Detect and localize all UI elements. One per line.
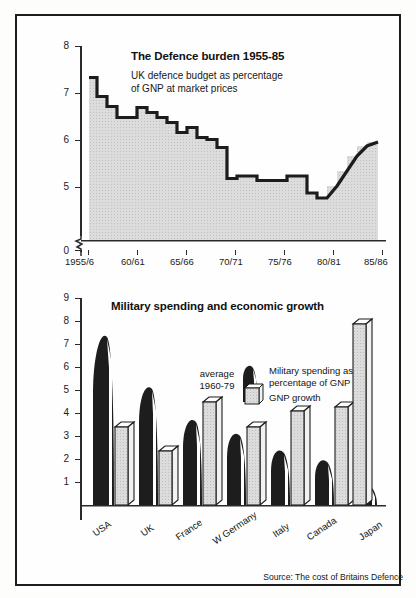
bottom-ytick-2: 2 xyxy=(55,454,69,464)
bottom-xlabel-uk: UK xyxy=(139,523,156,539)
bottom-tick-8 xyxy=(75,321,80,322)
top-xlabel-7576: 75/76 xyxy=(268,257,292,267)
top-xlabel-6566: 65/66 xyxy=(170,257,194,267)
bottom-tick-2 xyxy=(75,459,80,460)
top-ytick-6: 6 xyxy=(55,135,69,145)
top-xtick-4 xyxy=(284,250,285,255)
legend-label-military: Military spending as percentage of GNP xyxy=(269,365,381,389)
bar-group-italy xyxy=(271,406,310,505)
bottom-tick-6 xyxy=(75,367,80,368)
bar-uk-gnp-side xyxy=(172,446,178,505)
bottom-ytick-9: 9 xyxy=(55,293,69,303)
top-tick-5 xyxy=(75,187,80,188)
bar-usa-gnp-face xyxy=(115,427,128,505)
defence-burden-chart: The Defence burden 1955-85 UK defence bu… xyxy=(39,38,407,270)
figure-frame: The Defence burden 1955-85 UK defence bu… xyxy=(15,14,401,586)
top-xtick-5 xyxy=(333,250,334,255)
bottom-ytick-4: 4 xyxy=(55,408,69,418)
bar-italy-gnp-side xyxy=(304,406,310,505)
top-xtick-6 xyxy=(382,250,383,255)
bar-group-france xyxy=(183,397,222,505)
bottom-ytick-3: 3 xyxy=(55,431,69,441)
bar-group-usa xyxy=(93,336,134,505)
bottom-tick-7 xyxy=(75,344,80,345)
top-ytick-8: 8 xyxy=(55,41,69,51)
top-xtick-2 xyxy=(186,250,187,255)
bar-group-wgermany xyxy=(227,422,266,505)
bar-wgermany-gnp-side xyxy=(260,422,266,505)
bar-group-uk xyxy=(139,387,178,505)
bar-uk-gnp-face xyxy=(159,451,172,505)
legend-label-gnp: GNP growth xyxy=(269,392,321,404)
bottom-tick-4 xyxy=(75,413,80,414)
bar-italy-gnp-face xyxy=(291,411,304,505)
top-xlabel-8586: 85/86 xyxy=(364,257,388,267)
legend-average-note: average 1960-79 xyxy=(189,368,245,392)
top-xlabel-6061: 60/61 xyxy=(121,257,145,267)
bar-france-gnp-face xyxy=(203,402,216,505)
top-xtick-0 xyxy=(88,250,89,255)
bottom-tick-5 xyxy=(75,390,80,391)
source-note: Source: The cost of Britains Defence xyxy=(263,572,403,582)
bottom-chart-plot xyxy=(81,298,386,520)
bottom-ytick-6: 6 xyxy=(55,362,69,372)
top-area-fill xyxy=(89,78,378,241)
top-ytick-7: 7 xyxy=(55,88,69,98)
bar-japan-gnp-side xyxy=(366,319,372,505)
bottom-ytick-7: 7 xyxy=(55,339,69,349)
top-xtick-1 xyxy=(137,250,138,255)
legend-gnp-icon-face xyxy=(245,388,259,404)
top-chart-plot xyxy=(81,46,386,250)
bar-usa-gnp-side xyxy=(128,422,134,505)
bottom-xlabel-japan: Japan xyxy=(357,520,384,543)
bottom-tick-3 xyxy=(75,436,80,437)
bottom-tick-1 xyxy=(75,482,80,483)
bottom-xlabel-usa: USA xyxy=(91,519,113,538)
bar-group-canada xyxy=(315,402,354,505)
bottom-xlabel-france: France xyxy=(174,517,204,542)
bottom-tick-9 xyxy=(75,298,80,299)
legend-gnp-icon-side xyxy=(259,384,263,404)
bottom-ytick-5: 5 xyxy=(55,385,69,395)
legend-key-icons xyxy=(241,362,271,406)
top-xlabel-8081: 80/81 xyxy=(317,257,341,267)
military-spending-chart: Military spending and economic growth 9 … xyxy=(39,288,407,588)
bar-group-japan xyxy=(353,319,377,505)
top-tick-7 xyxy=(75,93,80,94)
bar-wgermany-gnp-face xyxy=(247,427,260,505)
bar-canada-gnp-face xyxy=(335,407,348,505)
bottom-xlabel-italy: Italy xyxy=(271,521,291,539)
bottom-ytick-8: 8 xyxy=(55,316,69,326)
top-y-axis-lower xyxy=(80,250,82,252)
top-ytick-5: 5 xyxy=(55,182,69,192)
top-xtick-3 xyxy=(235,250,236,255)
bottom-ytick-1: 1 xyxy=(55,477,69,487)
top-tick-6 xyxy=(75,140,80,141)
top-tick-8 xyxy=(75,46,80,47)
figure-page: The Defence burden 1955-85 UK defence bu… xyxy=(0,0,416,598)
top-xlabel-7071: 70/71 xyxy=(219,257,243,267)
top-ytick-0: 0 xyxy=(55,246,69,256)
bar-france-gnp-side xyxy=(216,397,222,505)
top-xlabel-1955: 1955/6 xyxy=(65,257,94,267)
bar-japan-gnp-face xyxy=(353,324,366,505)
